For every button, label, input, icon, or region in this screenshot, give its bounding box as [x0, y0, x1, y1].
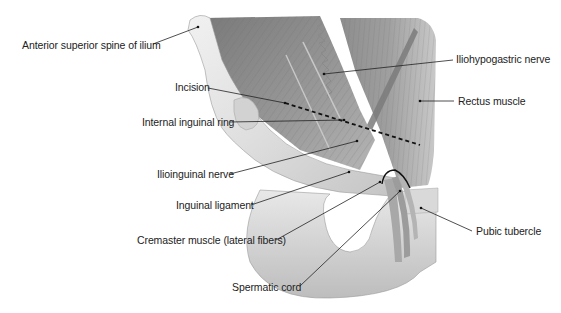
label-pubic-tubercle: Pubic tubercle: [476, 225, 541, 237]
label-anterior-superior-spine: Anterior superior spine of ilium: [22, 39, 161, 51]
label-cremaster-muscle: Cremaster muscle (lateral fibers): [137, 234, 286, 246]
label-inguinal-ligament: Inguinal ligament: [176, 199, 254, 211]
label-spermatic-cord: Spermatic cord: [232, 281, 301, 293]
label-iliohypogastric-nerve: Iliohypogastric nerve: [456, 53, 550, 65]
label-ilioinguinal-nerve: Ilioinguinal nerve: [157, 168, 234, 180]
label-incision: Incision: [175, 81, 210, 93]
label-internal-inguinal-ring: Internal inguinal ring: [142, 116, 234, 128]
label-rectus-muscle: Rectus muscle: [458, 95, 526, 107]
